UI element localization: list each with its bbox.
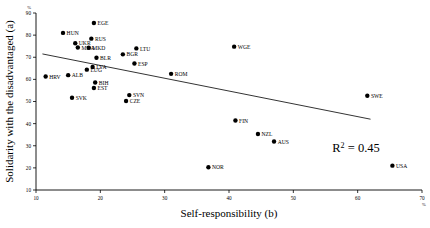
data-point: USA [390, 163, 407, 169]
x-axis-unit: % [422, 202, 426, 207]
y-tick-label: 60 [26, 76, 32, 82]
y-tick-label: 20 [26, 165, 32, 171]
point-label: LTU [140, 46, 150, 52]
point-label: NOR [212, 164, 224, 170]
point-marker [76, 45, 80, 49]
point-marker [70, 96, 74, 100]
data-point: RUS [89, 36, 106, 42]
data-point: NOR [206, 164, 224, 170]
y-tick-label: 80 [26, 32, 32, 38]
x-tick-label: 10 [33, 195, 39, 201]
point-label: HRV [49, 74, 60, 80]
data-point: BGR [121, 51, 139, 57]
point-marker [93, 80, 97, 84]
data-point: ESP [132, 61, 147, 67]
x-tick-label: 70 [419, 195, 425, 201]
point-marker [66, 73, 70, 77]
point-marker [127, 93, 131, 97]
data-point: ROM [169, 71, 188, 77]
plot-canvas: 102030405060708090%10203040506070%EGEHUN… [0, 0, 430, 228]
point-label: NZL [262, 131, 273, 137]
point-marker [365, 94, 369, 98]
x-tick-label: 60 [355, 195, 361, 201]
data-point: SVK [70, 95, 87, 101]
scatter-chart: 102030405060708090%10203040506070%EGEHUN… [0, 0, 430, 228]
point-marker [73, 41, 77, 45]
data-point: EST [92, 85, 108, 91]
y-axis-unit: % [27, 5, 31, 10]
point-marker [233, 118, 237, 122]
point-label: CZE [130, 98, 141, 104]
point-label: ROM [175, 71, 188, 77]
x-tick-label: 50 [291, 195, 297, 201]
point-marker [92, 21, 96, 25]
point-label: MKD [92, 45, 105, 51]
trend-line [42, 54, 370, 119]
data-point: AUS [272, 139, 289, 145]
data-point: BLR [94, 55, 111, 61]
data-point: EGE [92, 20, 109, 26]
point-marker [206, 165, 210, 169]
point-label: EST [98, 85, 109, 91]
r-squared-text: R2 = 0.45 [332, 141, 380, 155]
point-marker [134, 46, 138, 50]
point-label: SWE [371, 93, 383, 99]
point-marker [43, 74, 47, 78]
data-point: FIN [233, 118, 248, 124]
data-point: WGE [232, 44, 251, 50]
y-tick-label: 10 [26, 187, 32, 193]
point-marker [121, 52, 125, 56]
y-tick-label: 30 [26, 143, 32, 149]
y-tick-label: 70 [26, 54, 32, 60]
point-label: USA [396, 163, 407, 169]
y-axis-title: Solidarity with the disadvantaged (a) [3, 20, 16, 183]
point-marker [390, 163, 394, 167]
x-tick-label: 20 [98, 195, 104, 201]
point-marker [87, 46, 91, 50]
point-label: BLR [100, 55, 111, 61]
x-tick-label: 30 [162, 195, 168, 201]
point-label: HUN [67, 30, 79, 36]
point-marker [124, 99, 128, 103]
data-point: ALB [66, 72, 83, 78]
point-label: EGE [98, 20, 109, 26]
data-point: LUG [85, 67, 102, 73]
data-point: NZL [256, 131, 273, 137]
point-marker [61, 31, 65, 35]
point-marker [132, 61, 136, 65]
y-tick-label: 50 [26, 98, 32, 104]
point-label: ESP [138, 61, 148, 67]
data-point: SWE [365, 93, 383, 99]
point-label: BGR [126, 51, 138, 57]
point-marker [169, 72, 173, 76]
point-marker [92, 86, 96, 90]
y-tick-label: 90 [26, 10, 32, 16]
point-marker [94, 55, 98, 59]
point-label: LUG [90, 67, 102, 73]
point-marker [256, 132, 260, 136]
r-squared-annotation: R2 = 0.45 [332, 141, 380, 155]
point-label: ALB [72, 72, 83, 78]
data-point: CZE [124, 98, 141, 104]
point-label: AUS [278, 139, 289, 145]
data-point: HRV [43, 74, 60, 80]
point-marker [85, 67, 89, 71]
point-label: SVK [76, 95, 87, 101]
point-label: WGE [238, 44, 251, 50]
y-tick-label: 40 [26, 121, 32, 127]
point-label: FIN [239, 118, 248, 124]
x-axis-title: Self-responsibility (b) [181, 207, 278, 220]
point-marker [232, 44, 236, 48]
data-point: HUN [61, 30, 79, 36]
point-marker [272, 139, 276, 143]
x-tick-label: 40 [226, 195, 232, 201]
point-label: RUS [95, 36, 106, 42]
